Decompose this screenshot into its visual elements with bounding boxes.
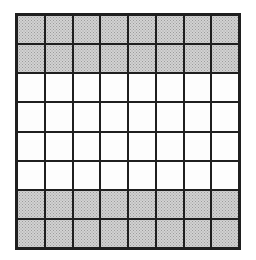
grid-cell: [157, 16, 183, 43]
grid-cell: [74, 162, 100, 189]
grid-cell: [74, 74, 100, 101]
grid-cell: [18, 191, 44, 218]
grid-cell: [18, 133, 44, 160]
grid-cell: [74, 133, 100, 160]
grid-cell: [185, 74, 211, 101]
grid-cell: [46, 16, 72, 43]
grid-cell: [185, 191, 211, 218]
grid-cell: [157, 191, 183, 218]
grid-cell: [46, 162, 72, 189]
grid-cell: [18, 16, 44, 43]
grid-cell: [185, 45, 211, 72]
grid-cell: [157, 133, 183, 160]
grid-cell: [212, 103, 238, 130]
grid-cell: [129, 162, 155, 189]
grid-cell: [101, 16, 127, 43]
grid-cell: [185, 162, 211, 189]
grid-cell: [74, 45, 100, 72]
grid-cell: [18, 74, 44, 101]
grid-cell: [185, 133, 211, 160]
grid-cell: [185, 16, 211, 43]
grid-cell: [157, 74, 183, 101]
grid-cell: [129, 220, 155, 247]
grid-cell: [74, 16, 100, 43]
grid-cell: [157, 220, 183, 247]
grid-cell: [18, 162, 44, 189]
grid-cell: [101, 103, 127, 130]
grid-cell: [129, 103, 155, 130]
grid-cell: [74, 103, 100, 130]
grid-cell: [157, 45, 183, 72]
grid-cell: [212, 16, 238, 43]
grid-cell: [101, 45, 127, 72]
grid-cell: [46, 74, 72, 101]
grid-cell: [129, 191, 155, 218]
grid-cell: [129, 16, 155, 43]
grid-cell: [101, 162, 127, 189]
grid-cell: [212, 74, 238, 101]
grid-cell: [129, 45, 155, 72]
grid-cell: [18, 220, 44, 247]
grid-cell: [46, 133, 72, 160]
grid-cell: [157, 103, 183, 130]
grid-cell: [46, 45, 72, 72]
grid-cell: [212, 220, 238, 247]
grid-cell: [129, 133, 155, 160]
fraction-grid: [15, 13, 241, 250]
grid-cell: [46, 191, 72, 218]
grid-cell: [129, 74, 155, 101]
grid-cell: [212, 45, 238, 72]
grid-cell: [101, 191, 127, 218]
grid-cell: [212, 191, 238, 218]
page-background: [0, 0, 256, 260]
grid-cell: [185, 220, 211, 247]
grid-cell: [157, 162, 183, 189]
grid-cell: [185, 103, 211, 130]
grid-cell: [18, 103, 44, 130]
grid-cell: [101, 74, 127, 101]
grid-cell: [18, 45, 44, 72]
grid-cell: [212, 133, 238, 160]
grid-cell: [74, 220, 100, 247]
grid-cell: [46, 220, 72, 247]
grid-cell: [101, 220, 127, 247]
grid-cell: [74, 191, 100, 218]
grid-cell: [212, 162, 238, 189]
grid-cell: [46, 103, 72, 130]
grid-cell: [101, 133, 127, 160]
